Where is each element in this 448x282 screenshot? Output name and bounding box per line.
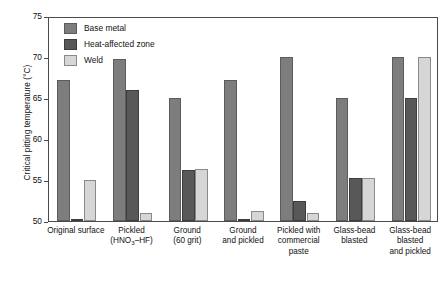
bar <box>140 213 153 221</box>
bar <box>57 80 70 221</box>
legend-swatch-icon <box>64 55 77 66</box>
y-axis-tick-label: 75 <box>16 12 42 20</box>
y-axis-tick-label: 65 <box>16 94 42 102</box>
y-axis-tick-label: 50 <box>16 217 42 225</box>
bar <box>349 178 362 221</box>
bar <box>238 219 251 221</box>
chart-legend: Base metalHeat-affected zoneWeld <box>64 21 155 69</box>
y-axis-tick-label: 55 <box>16 176 42 184</box>
bar <box>418 57 431 221</box>
x-axis-category-label: Glass-beadblastedand pickled <box>376 226 444 257</box>
legend-label: Base metal <box>84 23 126 33</box>
legend-item: Weld <box>64 53 155 67</box>
y-axis-tick-label: 70 <box>16 53 42 61</box>
legend-label: Weld <box>84 55 103 65</box>
bar <box>182 170 195 221</box>
legend-item: Heat-affected zone <box>64 37 155 51</box>
bar <box>126 90 139 221</box>
bar <box>307 213 320 221</box>
y-axis-label: Critical pitting temperature (°C) <box>23 13 32 233</box>
bar <box>251 211 264 221</box>
legend-swatch-icon <box>64 39 77 50</box>
bar <box>336 98 349 221</box>
bar <box>84 180 97 221</box>
bar <box>224 80 237 221</box>
legend-swatch-icon <box>64 23 77 34</box>
bar <box>71 219 84 221</box>
bar <box>405 98 418 221</box>
bar <box>113 59 126 221</box>
y-axis-tick-mark <box>44 222 48 223</box>
bar <box>280 57 293 221</box>
bar <box>195 169 208 221</box>
bar <box>362 178 375 221</box>
y-axis-tick-label: 60 <box>16 135 42 143</box>
bar <box>293 201 306 222</box>
chart-figure: Critical pitting temperature (°C) 505560… <box>0 0 448 282</box>
legend-label: Heat-affected zone <box>84 39 155 49</box>
legend-item: Base metal <box>64 21 155 35</box>
bar <box>392 57 405 221</box>
bar <box>169 98 182 221</box>
